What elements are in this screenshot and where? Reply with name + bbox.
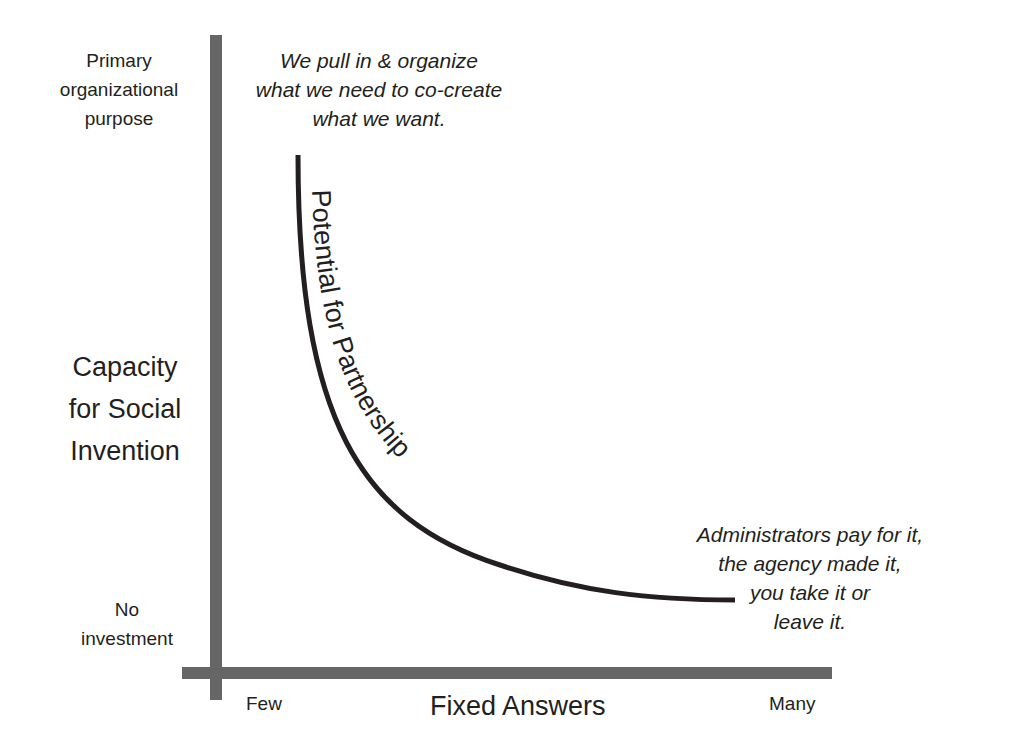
y-top-label: Primary organizational purpose [34,46,204,133]
annotation-line: you take it or [670,578,950,607]
x-left-label: Few [246,693,282,715]
curve-label: Potential for Partnership [306,189,417,463]
y-top-label-line: purpose [34,104,204,133]
annotation-line: the agency made it, [670,549,950,578]
annotation-line: Administrators pay for it, [670,520,950,549]
y-title-line: for Social [30,388,220,430]
y-bottom-label-line: investment [42,624,212,653]
x-axis-title: Fixed Answers [430,691,606,722]
y-top-label-line: organizational [34,75,204,104]
y-bottom-label-line: No [42,595,212,624]
annotation-line: what we need to co-create [224,75,534,104]
y-bottom-label: No investment [42,595,212,653]
y-top-label-line: Primary [34,46,204,75]
x-right-label: Many [769,693,815,715]
y-title-line: Capacity [30,346,220,388]
annotation-line: what we want. [224,104,534,133]
y-title-line: Invention [30,430,220,472]
bottom-annotation: Administrators pay for it, the agency ma… [670,520,950,636]
x-axis [182,667,832,679]
annotation-line: leave it. [670,607,950,636]
y-axis-title: Capacity for Social Invention [30,346,220,472]
top-annotation: We pull in & organize what we need to co… [224,46,534,133]
annotation-line: We pull in & organize [224,46,534,75]
